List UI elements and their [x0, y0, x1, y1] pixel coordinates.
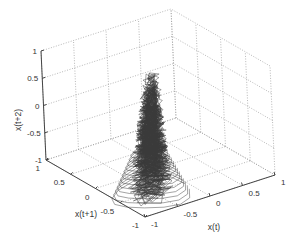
z-tick-label: 1	[33, 47, 38, 56]
y-tick-label: 0.5	[54, 178, 66, 187]
z-tick-label: -0.5	[27, 129, 41, 138]
x-tick-label: -1	[151, 220, 159, 229]
z-axis-label: x(t+2)	[13, 109, 23, 131]
y-tick-label: -1	[132, 221, 140, 230]
y-axis-label: x(t+1)	[75, 209, 97, 219]
y-tick-label: 0	[85, 193, 90, 202]
x-tick-label: 0.5	[249, 189, 261, 198]
y-tick-label: -0.5	[101, 207, 115, 216]
z-tick-label: 0.5	[27, 74, 39, 83]
x-tick-label: -0.5	[184, 210, 198, 219]
y-tick-label: 1	[36, 164, 41, 173]
x-tick-label: 0	[216, 199, 221, 208]
x-tick-label: 1	[281, 178, 286, 187]
z-tick-label: 0	[35, 102, 40, 111]
phase-space-3d-plot: -1-0.500.51 10.50-0.5-1 -1-0.500.51 x(t+…	[0, 0, 300, 245]
x-axis-label: x(t)	[208, 222, 220, 232]
trajectory-cluster	[112, 73, 190, 208]
y-axis-ticks: 10.50-0.5-1	[36, 158, 147, 230]
